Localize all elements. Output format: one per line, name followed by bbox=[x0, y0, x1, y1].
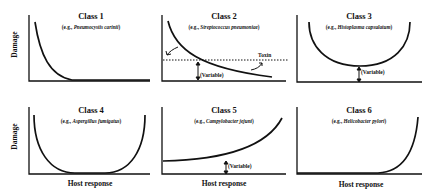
class-6-curve bbox=[297, 117, 418, 173]
class-3-variable-label: (Variable) bbox=[361, 69, 385, 75]
panel-4-title: Class 4 bbox=[31, 105, 151, 115]
panel-5-title: Class 5 bbox=[164, 105, 284, 115]
panel-5-example: (e.g., Campylobacter jejuni) bbox=[159, 118, 289, 124]
class-2-left-arrow-icon bbox=[167, 47, 178, 55]
panel-2-example: (e.g., Streptococcus pneumoniae) bbox=[159, 24, 289, 30]
class-2-right-arrow-icon bbox=[251, 63, 262, 70]
toxin-label: Toxin bbox=[258, 52, 271, 58]
panel-1-example: (e.g., Pneumocystis carinii) bbox=[26, 24, 156, 30]
y-axis-label-bottom: Damage bbox=[10, 117, 19, 157]
class-5-variable-label: (Variable) bbox=[228, 163, 252, 169]
panel-1-title: Class 1 bbox=[31, 11, 151, 21]
panel-3-title: Class 3 bbox=[299, 11, 419, 21]
class-1-curve bbox=[35, 22, 150, 80]
class-2-variable-label: (Variable) bbox=[200, 72, 224, 78]
class-5-curve bbox=[163, 118, 282, 161]
panel-6-title: Class 6 bbox=[299, 105, 419, 115]
panel-2-title: Class 2 bbox=[164, 11, 284, 21]
x-axis-label-1: Host response bbox=[40, 179, 140, 188]
y-axis-label-top: Damage bbox=[10, 25, 19, 65]
panel-4-example: (e.g., Aspergillus fumigatus) bbox=[26, 118, 156, 124]
panel-6-example: (e.g., Helicobacter pylori) bbox=[294, 118, 424, 124]
panel-3-example: (e.g., Histoplasma capsulatum) bbox=[294, 24, 424, 30]
x-axis-label-2: Host response bbox=[174, 179, 274, 188]
x-axis-label-3: Host response bbox=[311, 180, 411, 189]
